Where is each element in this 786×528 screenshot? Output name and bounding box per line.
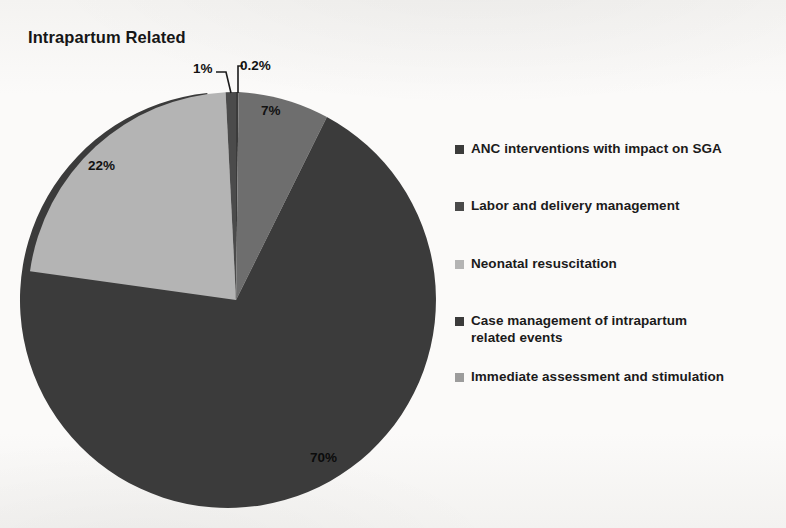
- pie-chart-svg: [0, 0, 460, 528]
- legend-item-case-management[interactable]: Case management of intrapartum related e…: [455, 312, 780, 347]
- legend-item-immediate-assessment[interactable]: Immediate assessment and stimulation: [455, 368, 780, 385]
- pie-chart: 1% 0.2% 7% 22% 70%: [0, 0, 460, 528]
- pie-label-twenty-two-percent: 22%: [88, 158, 115, 173]
- legend-swatch-icon: [455, 202, 464, 211]
- legend-label: Labor and delivery management: [471, 197, 680, 214]
- legend-swatch-icon: [455, 260, 464, 269]
- legend-item-anc-interventions[interactable]: ANC interventions with impact on SGA: [455, 140, 780, 157]
- chart-legend: ANC interventions with impact on SGA Lab…: [455, 140, 780, 386]
- legend-swatch-icon: [455, 373, 464, 382]
- legend-label: ANC interventions with impact on SGA: [471, 140, 722, 157]
- chart-page: Intrapartum Related 1% 0.2% 7% 22% 70%: [0, 0, 786, 528]
- legend-label: Immediate assessment and stimulation: [471, 368, 724, 385]
- legend-swatch-icon: [455, 145, 464, 154]
- pie-label-one-percent: 1%: [193, 61, 213, 76]
- pie-label-seven-percent: 7%: [261, 103, 281, 118]
- legend-item-neonatal-resuscitation[interactable]: Neonatal resuscitation: [455, 255, 780, 272]
- legend-label: Neonatal resuscitation: [471, 255, 617, 272]
- pie-label-seventy-percent: 70%: [310, 450, 337, 465]
- legend-label: Case management of intrapartum related e…: [471, 312, 733, 347]
- legend-swatch-icon: [455, 317, 464, 326]
- legend-item-labor-and-delivery-management[interactable]: Labor and delivery management: [455, 197, 780, 214]
- pie-slice-neonatal-resuscitation[interactable]: [30, 92, 236, 300]
- pie-label-point-two-percent: 0.2%: [240, 58, 271, 73]
- leader-line-one-percent: [216, 72, 231, 93]
